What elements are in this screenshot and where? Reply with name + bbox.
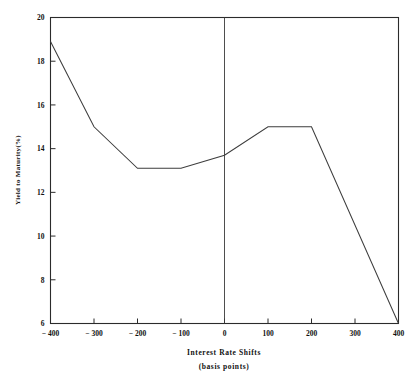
y-tick-label: 16	[37, 101, 45, 110]
y-axis-tick-labels: 68101214161820	[37, 13, 45, 328]
chart-figure: − 400− 300− 200− 1000100200300400 681012…	[0, 0, 416, 378]
y-axis-ticks	[51, 18, 56, 324]
x-axis-subtitle: (basis points)	[199, 362, 250, 371]
y-tick-label: 6	[41, 319, 45, 328]
y-tick-label: 20	[37, 13, 45, 22]
x-tick-label: 300	[349, 329, 361, 338]
x-tick-label: 200	[306, 329, 318, 338]
y-tick-label: 18	[37, 57, 45, 66]
y-tick-label: 12	[37, 188, 45, 197]
x-tick-label: 100	[262, 329, 274, 338]
x-tick-label: − 200	[129, 329, 147, 338]
x-tick-label: − 400	[42, 329, 60, 338]
y-tick-label: 10	[37, 232, 45, 241]
x-tick-label: 400	[393, 329, 405, 338]
x-tick-label: − 100	[172, 329, 190, 338]
y-tick-label: 14	[37, 144, 45, 153]
x-tick-label: 0	[223, 329, 227, 338]
y-tick-label: 8	[41, 276, 45, 285]
x-axis-title: Interest Rate Shifts	[187, 348, 261, 357]
yield-curve-chart: − 400− 300− 200− 1000100200300400 681012…	[0, 0, 416, 378]
x-axis-tick-labels: − 400− 300− 200− 1000100200300400	[42, 329, 405, 338]
x-tick-label: − 300	[85, 329, 103, 338]
y-axis-title: Yield to Maturity(%)	[14, 135, 22, 205]
